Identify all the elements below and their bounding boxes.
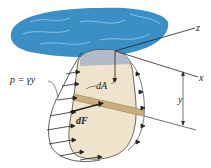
area-element-label: dA: [96, 80, 108, 91]
pressure-label: p = γy: [9, 74, 36, 85]
axis-x-label: x: [198, 72, 204, 83]
depth-arrow-down-icon: [181, 121, 185, 126]
hydrostatic-diagram: p = γy dA dF z x y y: [0, 0, 211, 168]
depth-dimension: [144, 72, 196, 130]
diagram-canvas: p = γy dA dF z x y y: [0, 0, 211, 168]
axis-y-label: y: [111, 74, 116, 84]
pressure-leader: [48, 81, 58, 97]
depth-label: y: [177, 94, 183, 105]
water-surface: [11, 8, 168, 57]
axis-z-label: z: [195, 22, 200, 33]
force-element-label: dF: [76, 115, 88, 126]
